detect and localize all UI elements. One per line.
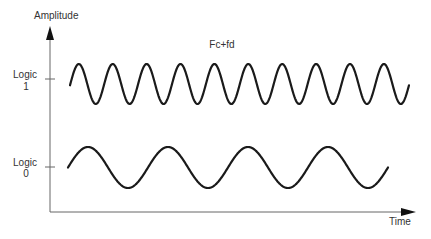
logic0-waveform [68, 147, 388, 188]
x-axis-arrow-icon [401, 208, 416, 216]
y-axis-label: Amplitude [34, 10, 78, 21]
logic0-label-line1: Logic [13, 157, 37, 168]
x-axis-label: Time [389, 216, 411, 227]
logic1-waveform [70, 64, 409, 104]
diagram-canvas [0, 0, 431, 239]
logic1-label-line2: 1 [23, 81, 29, 92]
logic0-label-line2: 0 [23, 168, 29, 179]
fsk-diagram: Amplitude Fc+fd Logic 1 Logic 0 Time [0, 0, 431, 239]
logic1-label-line1: Logic [13, 69, 37, 80]
y-axis-arrow-icon [46, 26, 54, 40]
frequency-label: Fc+fd [209, 39, 234, 50]
